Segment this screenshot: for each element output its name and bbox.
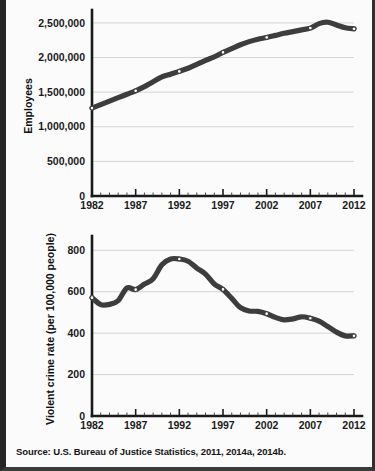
data-point-marker (265, 312, 269, 316)
chart-panel-violent-crime-rate: 0200400600800198219871992199720022007201… (6, 228, 372, 443)
chart-panel-employees: 0500,0001,000,0001,500,0002,000,0002,500… (6, 0, 372, 228)
y-tick-label: 2,000,000 (38, 51, 85, 63)
data-point-marker (90, 296, 94, 300)
y-tick-label: 200 (67, 368, 85, 380)
x-tick-label: 1987 (124, 419, 148, 431)
data-point-marker (308, 26, 312, 30)
data-point-marker (221, 50, 225, 54)
x-tick-label: 1992 (168, 419, 192, 431)
x-tick-label: 2012 (342, 199, 366, 211)
data-point-marker (221, 288, 225, 292)
x-tick-label: 2002 (255, 199, 279, 211)
x-tick-label: 1997 (211, 199, 235, 211)
y-tick-label: 1,500,000 (38, 86, 85, 98)
x-tick-label: 1982 (80, 419, 104, 431)
data-point-marker (90, 106, 94, 110)
figure-container: 0500,0001,000,0001,500,0002,000,0002,500… (0, 0, 375, 471)
y-tick-label: 500,000 (47, 155, 85, 167)
x-tick-label: 1992 (168, 199, 192, 211)
y-tick-label: 400 (67, 327, 85, 339)
source-note: Source: U.S. Bureau of Justice Statistic… (16, 446, 366, 457)
y-tick-label: 2,500,000 (38, 17, 85, 29)
data-series-line (92, 258, 354, 336)
x-tick-label: 2007 (299, 419, 323, 431)
data-point-marker (134, 89, 138, 93)
y-tick-label: 1,000,000 (38, 120, 85, 132)
x-tick-label: 2007 (299, 199, 323, 211)
violent-crime-rate-line-chart: 0200400600800198219871992199720022007201… (6, 228, 372, 443)
employees-line-chart: 0500,0001,000,0001,500,0002,000,0002,500… (6, 0, 372, 228)
data-point-marker (134, 288, 138, 292)
x-tick-label: 1987 (124, 199, 148, 211)
y-axis-title: Violent crime rate (per 100,000 people) (44, 233, 56, 425)
y-tick-label: 800 (67, 244, 85, 256)
data-point-marker (352, 334, 356, 338)
data-point-marker (352, 27, 356, 31)
data-point-marker (265, 36, 269, 40)
y-axis-title: Employees (22, 78, 34, 134)
x-tick-label: 2012 (342, 419, 366, 431)
y-tick-label: 600 (67, 285, 85, 297)
x-tick-label: 2002 (255, 419, 279, 431)
data-point-marker (177, 69, 181, 73)
x-tick-label: 1982 (80, 199, 104, 211)
data-point-marker (177, 257, 181, 261)
data-point-marker (308, 316, 312, 320)
data-series-line (92, 22, 354, 108)
x-tick-label: 1997 (211, 419, 235, 431)
